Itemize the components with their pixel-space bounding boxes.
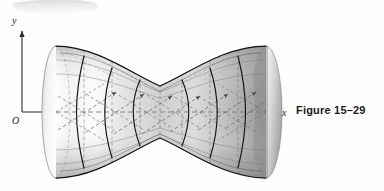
x-axis-label: x — [281, 107, 287, 118]
y-axis-label: y — [11, 15, 17, 26]
figure-container: y O x Figure 15–29 — [0, 0, 384, 191]
figure-caption: Figure 15–29 — [296, 104, 366, 116]
hyperboloid-figure-svg: y O x — [0, 0, 384, 191]
origin-label: O — [12, 115, 19, 126]
scan-smudge-artifact — [13, 0, 98, 14]
